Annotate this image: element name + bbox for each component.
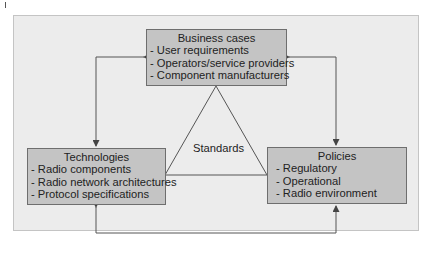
technologies-title: Technologies	[31, 151, 162, 163]
technologies-item: - Radio components	[31, 163, 162, 175]
standards-triangle	[165, 86, 267, 175]
connector-technologies-policies	[96, 206, 336, 233]
technologies-item: - Protocol specifications	[31, 188, 162, 200]
technologies-box: Technologies - Radio components - Radio …	[27, 148, 166, 205]
business-item: - User requirements	[150, 44, 283, 56]
business-cases-box: Business cases - User requirements - Ope…	[146, 29, 287, 86]
policies-item: - Operational	[271, 175, 403, 187]
policies-item: - Regulatory	[271, 162, 403, 174]
business-cases-title: Business cases	[150, 32, 283, 44]
policies-item: - Radio environment	[271, 187, 403, 199]
policies-title: Policies	[271, 150, 403, 162]
standards-label: Standards	[193, 142, 244, 154]
technologies-item: - Radio network architectures	[31, 176, 162, 188]
business-item: - Component manufacturers	[150, 69, 283, 81]
policies-box: Policies - Regulatory - Operational - Ra…	[267, 147, 407, 204]
connector-business-policies	[289, 57, 336, 145]
connector-business-technologies	[96, 57, 144, 146]
business-item: - Operators/service providers	[150, 57, 283, 69]
